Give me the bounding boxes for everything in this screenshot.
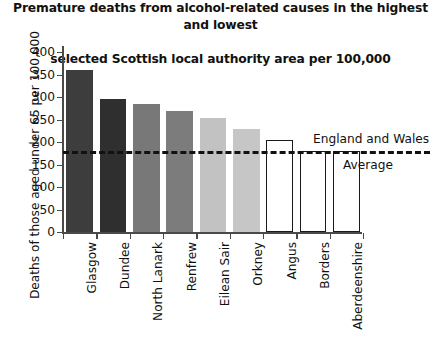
england-and-wales-average-label-top: England and Wales [313,132,429,146]
y-axis-tick-labels: 050100150200250300350400 [11,52,55,232]
x-axis-label-orkney: Orkney [251,242,265,286]
x-axis-tick [263,233,264,239]
y-axis-tick-label: 150 [15,158,55,172]
x-axis-label-eilean-sair: Eilean Sair [218,242,232,306]
chart-title-line-1: Premature deaths from alcohol-related ca… [13,1,428,32]
plot-area: 050100150200250300350400 GlasgowDundeeNo… [63,52,373,232]
y-axis-tick-label: 50 [15,203,55,217]
x-axis-label-dundee: Dundee [118,242,132,289]
y-axis-tick [57,97,63,98]
y-axis-tick [57,187,63,188]
x-axis-label-north-lanark: North Lanark [151,242,165,321]
x-axis-tick [296,233,297,239]
y-axis-tick [57,75,63,76]
y-axis-tick-label: 350 [15,68,55,82]
y-axis-tick [57,142,63,143]
x-axis-label-glasgow: Glasgow [85,242,99,293]
england-and-wales-average-label-bottom: Average [343,158,393,172]
x-axis-tick [63,233,64,239]
bar-north-lanark [133,104,160,232]
y-axis-tick [57,52,63,53]
x-axis-tick [196,233,197,239]
x-axis-label-angus: Angus [285,242,299,280]
y-axis-tick [57,210,63,211]
y-axis-tick-label: 250 [15,113,55,127]
england-and-wales-average-line [63,151,430,154]
y-axis-tick [57,120,63,121]
alcohol-deaths-bar-chart: Premature deaths from alcohol-related ca… [0,0,441,343]
x-axis-tick [163,233,164,239]
bar-orkney [233,129,260,232]
x-axis-tick [363,233,364,239]
y-axis-tick-label: 300 [15,90,55,104]
bar-eilean-sair [200,118,227,232]
bar-dundee [100,99,127,232]
y-axis-tick-label: 0 [15,225,55,239]
x-axis-line [62,232,362,234]
x-axis-tick [330,233,331,239]
x-axis-tick [230,233,231,239]
y-axis-tick-label: 100 [15,180,55,194]
bar-borders [300,151,327,232]
x-axis-tick [130,233,131,239]
x-axis-label-borders: Borders [318,242,332,289]
y-axis-tick-label: 400 [15,45,55,59]
bar-renfrew [166,111,193,233]
y-axis-tick [57,165,63,166]
y-axis-tick-label: 200 [15,135,55,149]
x-axis-tick [96,233,97,239]
x-axis-label-aberdeenshire: Aberdeenshire [351,242,365,330]
x-axis-label-renfrew: Renfrew [185,242,199,291]
